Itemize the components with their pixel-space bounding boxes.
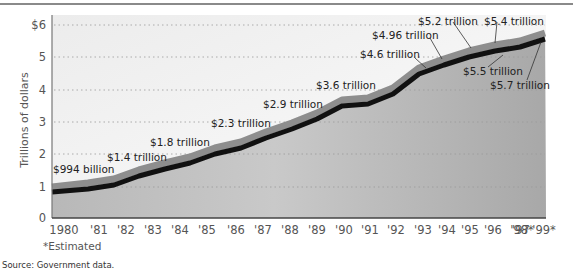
x-tick: '86 bbox=[227, 223, 245, 237]
y-tick: 2 bbox=[39, 147, 46, 161]
x-tick: '81 bbox=[90, 223, 108, 237]
x-tick: '82 bbox=[117, 223, 135, 237]
y-tick: 0 bbox=[39, 211, 46, 225]
y-tick: 4 bbox=[39, 83, 46, 97]
y-tick-labels: 0 1 2 3 4 5 $6 bbox=[31, 18, 46, 225]
x-tick-labels: 1980 '81 '82 '83 '84 '85 '86 '87 '88 '89… bbox=[49, 223, 556, 237]
annotation-1983: $1.4 trillion bbox=[107, 151, 167, 163]
annotation-1998: $5.5 trillion bbox=[463, 65, 523, 77]
y-tick: 3 bbox=[39, 115, 46, 129]
x-tick: '89 bbox=[308, 223, 326, 237]
y-tick: 1 bbox=[39, 180, 46, 194]
x-tick: '84 bbox=[171, 223, 189, 237]
x-tick: '92 bbox=[387, 223, 405, 237]
x-tick: '83 bbox=[144, 223, 162, 237]
x-tick: '98* bbox=[510, 223, 534, 237]
annotation-1999: $5.7 trillion bbox=[490, 79, 550, 91]
source-note: Source: Government data. bbox=[2, 260, 114, 270]
x-tick: '85 bbox=[198, 223, 216, 237]
x-tick: '93 bbox=[414, 223, 432, 237]
annotation-1995: $4.96 trillion bbox=[372, 29, 439, 41]
annotation-1985: $1.8 trillion bbox=[150, 136, 210, 148]
annotation-1997: $5.4 trillion bbox=[484, 15, 544, 27]
x-tick: '96 bbox=[484, 223, 502, 237]
x-tick: '91 bbox=[361, 223, 379, 237]
x-tick: 1980 bbox=[49, 223, 78, 237]
annotation-1991: $3.6 trillion bbox=[316, 79, 376, 91]
y-tick: 5 bbox=[39, 50, 46, 64]
x-tick: '94 bbox=[438, 223, 456, 237]
annotation-1980: $994 billion bbox=[53, 163, 114, 175]
y-tick: $6 bbox=[31, 18, 46, 32]
x-tick: '95 bbox=[461, 223, 479, 237]
annotation-1987: $2.3 trillion bbox=[211, 117, 271, 129]
y-axis-title: Trillions of dollars bbox=[18, 72, 31, 169]
footnote-estimated: *Estimated bbox=[43, 240, 101, 252]
annotation-1989: $2.9 trillion bbox=[263, 98, 323, 110]
annotation-1994: $4.6 trillion bbox=[360, 48, 420, 60]
x-tick: '88 bbox=[281, 223, 299, 237]
x-tick: '90 bbox=[335, 223, 353, 237]
x-tick: '87 bbox=[254, 223, 272, 237]
annotation-1996: $5.2 trillion bbox=[418, 15, 478, 27]
debt-chart: 0 1 2 3 4 5 $6 Trillions of dollars 1980… bbox=[0, 0, 573, 271]
x-tick: '99* bbox=[532, 223, 556, 237]
